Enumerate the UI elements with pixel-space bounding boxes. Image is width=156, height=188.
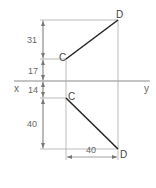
- dimension-31: 31: [27, 35, 37, 45]
- projection-diagram: x y D C C D 31 17 14 40 40: [0, 0, 156, 188]
- x-axis-label: x: [14, 83, 19, 94]
- dimension-14: 14: [28, 85, 38, 95]
- dimension-40-horizontal: 40: [86, 145, 96, 155]
- y-axis-label: y: [144, 83, 149, 94]
- plan-line-cd: [66, 98, 118, 149]
- dimension-17: 17: [28, 66, 38, 76]
- dimension-40-vertical: 40: [27, 119, 37, 129]
- elevation-line-cd: [66, 20, 118, 59]
- point-label-c-top: C: [59, 52, 66, 63]
- point-label-d-top: D: [116, 9, 123, 20]
- point-label-d-bottom: D: [120, 149, 127, 160]
- point-label-c-bottom: C: [68, 91, 75, 102]
